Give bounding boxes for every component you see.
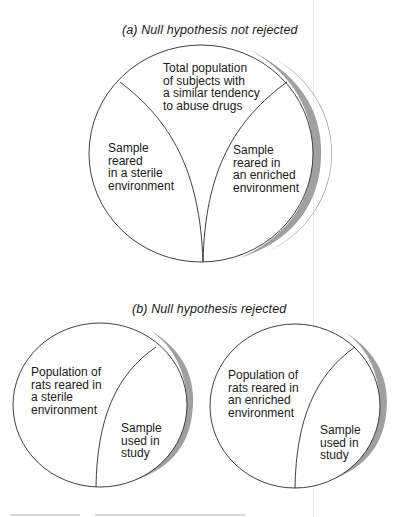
label-line: Sample [320, 424, 361, 437]
caption-fragment [95, 514, 245, 516]
panel-a-title: (a) Null hypothesis not rejected [122, 23, 298, 37]
label-line: environment [108, 180, 174, 193]
label-line: study [121, 447, 162, 460]
panel-a-right-label: Sample reared in an enriched environment [233, 144, 299, 194]
label-line: environment [228, 407, 299, 420]
figure-canvas: (a) Null hypothesis not rejected Total p… [0, 0, 407, 517]
label-line: study [320, 449, 361, 462]
label-line: Sample [233, 144, 299, 157]
panel-b-right-population-label: Population of rats reared in an enriched… [228, 369, 299, 419]
label-line: an enriched [233, 169, 299, 182]
caption-fragment [10, 514, 80, 516]
panel-a-top-label: Total population of subjects with a simi… [163, 62, 260, 112]
panel-a-left-label: Sample reared in a sterile environment [108, 142, 174, 192]
panel-b-left-population-label: Population of rats reared in a sterile e… [31, 366, 102, 416]
panel-b-left-sample-label: Sample used in study [121, 422, 162, 460]
label-line: environment [233, 182, 299, 195]
panel-b-right-sample-label: Sample used in study [320, 424, 361, 462]
label-line: an enriched [228, 394, 299, 407]
label-line: Population of [31, 366, 102, 379]
label-line: Sample [108, 142, 174, 155]
label-line: environment [31, 404, 102, 417]
label-line: Sample [121, 422, 162, 435]
label-line: in a sterile [108, 167, 174, 180]
label-line: Total population [163, 62, 260, 75]
label-line: to abuse drugs [163, 100, 260, 113]
panel-b-title: (b) Null hypothesis rejected [132, 302, 286, 316]
label-line: a similar tendency [163, 87, 260, 100]
label-line: a sterile [31, 391, 102, 404]
label-line: Population of [228, 369, 299, 382]
